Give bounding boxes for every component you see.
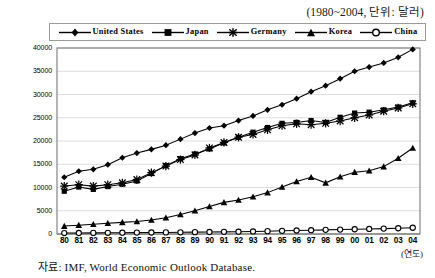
- diamond-marker: [352, 68, 358, 74]
- triangle-marker: [308, 174, 315, 180]
- series-line: [64, 49, 412, 177]
- diamond-marker: [90, 166, 96, 172]
- series-united-states: [61, 46, 416, 180]
- diamond-marker: [279, 102, 285, 108]
- y-tick-label: 5000: [12, 207, 52, 214]
- circle-marker: [323, 227, 328, 232]
- asterisk-marker: [351, 114, 359, 122]
- diamond-marker: [76, 168, 82, 174]
- y-tick-label: 0: [12, 230, 52, 237]
- legend-label-china: China: [394, 28, 417, 36]
- circle-marker: [410, 225, 415, 230]
- diamond-marker: [163, 142, 169, 148]
- asterisk-marker: [191, 151, 199, 159]
- series-line: [64, 104, 412, 186]
- x-tick-label: 04: [405, 236, 421, 245]
- diamond-marker: [206, 125, 212, 131]
- diamond-marker: [308, 89, 314, 95]
- legend-label-germany: Germany: [251, 28, 287, 36]
- chart-legend: United States Japan Germany: [49, 23, 426, 41]
- circle-marker: [396, 226, 401, 231]
- circle-marker: [381, 226, 386, 231]
- asterisk-marker: [409, 100, 417, 108]
- asterisk-marker: [104, 181, 112, 189]
- diamond-marker-icon: [58, 27, 92, 38]
- circle-marker-icon: [359, 27, 393, 38]
- asterisk-marker: [278, 122, 286, 130]
- asterisk-marker: [75, 181, 83, 189]
- asterisk-marker: [234, 133, 242, 141]
- y-tick-label: 20000: [12, 137, 52, 144]
- asterisk-marker: [365, 111, 373, 119]
- asterisk-marker-icon: [216, 27, 250, 38]
- diamond-marker: [395, 54, 401, 60]
- series-germany: [60, 100, 417, 191]
- triangle-marker: [264, 189, 271, 195]
- diamond-marker: [119, 155, 125, 161]
- circle-marker: [120, 230, 125, 235]
- asterisk-marker: [321, 119, 329, 127]
- diamond-marker: [323, 83, 329, 89]
- asterisk-marker: [336, 117, 344, 125]
- diamond-marker: [61, 174, 67, 180]
- asterisk-marker: [292, 120, 300, 128]
- circle-marker: [309, 228, 314, 233]
- asterisk-marker: [133, 175, 141, 183]
- square-marker-icon: [151, 27, 185, 38]
- circle-marker: [105, 230, 110, 235]
- diamond-marker: [235, 117, 241, 123]
- circle-marker: [91, 230, 96, 235]
- series-line: [64, 148, 412, 226]
- circle-marker: [367, 226, 372, 231]
- source-note: 자료: IMF, World Economic Outlook Database…: [38, 258, 255, 274]
- triangle-marker-icon: [294, 27, 328, 38]
- circle-marker: [279, 228, 284, 233]
- x-tick-label: 84: [114, 236, 130, 245]
- legend-label-japan: Japan: [186, 28, 209, 36]
- asterisk-marker: [176, 155, 184, 163]
- asterisk-marker: [394, 104, 402, 112]
- diamond-marker: [381, 60, 387, 66]
- diamond-marker: [264, 107, 270, 113]
- x-axis-unit-label: (연도): [401, 247, 423, 260]
- diamond-marker: [134, 150, 140, 156]
- circle-marker: [134, 230, 139, 235]
- legend-item-germany: Germany: [216, 27, 287, 38]
- y-tick-label: 30000: [12, 91, 52, 98]
- circle-marker: [236, 229, 241, 234]
- circle-marker: [265, 229, 270, 234]
- triangle-marker: [409, 145, 416, 151]
- circle-marker: [149, 230, 154, 235]
- legend-label-united-states: United States: [93, 28, 144, 36]
- asterisk-marker: [118, 179, 126, 187]
- asterisk-marker: [89, 182, 97, 190]
- circle-marker: [163, 230, 168, 235]
- legend-item-united-states: United States: [58, 27, 144, 38]
- x-tick-label: 94: [260, 236, 276, 245]
- triangle-marker: [395, 155, 402, 161]
- diamond-marker: [366, 64, 372, 70]
- diamond-marker: [410, 46, 416, 52]
- series-japan: [62, 100, 416, 194]
- circle-marker: [178, 230, 183, 235]
- asterisk-marker: [162, 162, 170, 170]
- asterisk-marker: [380, 107, 388, 115]
- circle-marker: [221, 229, 226, 234]
- circle-marker: [250, 229, 255, 234]
- diamond-marker: [221, 123, 227, 129]
- x-tick-label: 89: [187, 236, 203, 245]
- gdp-per-capita-chart-figure: (1980~2004, 단위: 달러) United States Japan: [0, 0, 435, 278]
- diamond-marker: [293, 96, 299, 102]
- asterisk-marker: [60, 182, 68, 190]
- y-tick-label: 40000: [12, 44, 52, 51]
- diamond-marker: [337, 76, 343, 82]
- asterisk-marker: [147, 168, 155, 176]
- triangle-marker: [322, 180, 329, 186]
- circle-marker: [294, 228, 299, 233]
- legend-item-china: China: [359, 27, 417, 38]
- circle-marker: [338, 227, 343, 232]
- y-tick-label: 15000: [12, 160, 52, 167]
- diamond-marker: [192, 130, 198, 136]
- y-tick-label: 10000: [12, 184, 52, 191]
- circle-marker: [76, 230, 81, 235]
